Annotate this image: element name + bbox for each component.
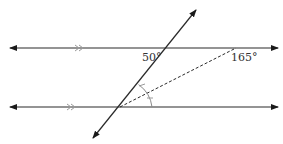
angle-bisector-arc xyxy=(139,84,153,107)
geometry-diagram: 50° 165° xyxy=(0,0,283,144)
dashed-line xyxy=(120,48,236,107)
transversal-line xyxy=(93,10,196,138)
bottom-parallel-line xyxy=(10,104,278,110)
angle-label-165: 165° xyxy=(231,51,258,64)
angle-label-50: 50° xyxy=(142,51,162,64)
